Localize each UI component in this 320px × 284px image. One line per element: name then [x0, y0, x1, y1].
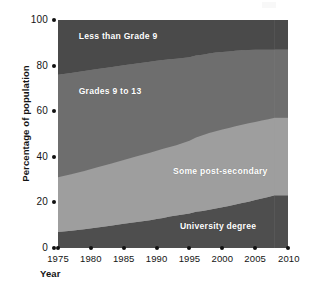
x-tick-dot: [122, 246, 126, 250]
x-tick-label: 1985: [113, 253, 135, 264]
band-label: Less than Grade 9: [79, 31, 158, 41]
y-axis-ticks: 100806040200: [26, 0, 56, 284]
scan-artifact: [262, 2, 276, 8]
y-tick-label: 40: [36, 151, 48, 163]
area-band-extend: [275, 118, 288, 196]
y-tick-label: 100: [31, 14, 48, 26]
x-tick-label: 2010: [278, 253, 300, 264]
y-tick-label: 20: [36, 196, 48, 208]
x-tick-dot: [220, 246, 224, 250]
plot-area: [58, 20, 288, 248]
x-tick-dot: [56, 246, 60, 250]
x-tick-label: 1995: [179, 253, 201, 264]
area-series-svg: [58, 20, 288, 248]
area-band-extend: [275, 20, 288, 50]
y-tick-dot: [52, 155, 56, 159]
y-tick-dot: [52, 200, 56, 204]
y-tick-label: 80: [36, 60, 48, 72]
x-tick-label: 2000: [212, 253, 234, 264]
band-label: Some post-secondary: [173, 166, 268, 176]
area-band-extend: [275, 195, 288, 248]
y-tick-dot: [52, 18, 56, 22]
x-tick-label: 2005: [244, 253, 266, 264]
x-tick-dot: [253, 246, 257, 250]
x-tick-dot: [187, 246, 191, 250]
y-tick: 40: [36, 151, 56, 163]
y-tick: 20: [36, 196, 56, 208]
y-tick-label: 60: [36, 105, 48, 117]
x-tick-dot: [286, 246, 290, 250]
stacked-area-chart: Percentage of population 100806040200 Le…: [0, 0, 320, 284]
band-label: University degree: [180, 221, 256, 231]
y-tick-dot: [52, 109, 56, 113]
x-axis-title: Year: [40, 268, 60, 279]
x-tick-label: 1990: [146, 253, 168, 264]
band-label: Grades 9 to 13: [79, 86, 142, 96]
y-tick: 60: [36, 105, 56, 117]
y-tick: 100: [31, 14, 56, 26]
x-tick-label: 1980: [80, 253, 102, 264]
x-axis-tick-labels: 19751980198519901995200020052010: [0, 253, 320, 267]
y-tick-dot: [52, 64, 56, 68]
y-tick: 80: [36, 60, 56, 72]
x-tick-dot: [155, 246, 159, 250]
area-band-extend: [275, 50, 288, 118]
x-tick-label: 1975: [47, 253, 69, 264]
x-tick-dot: [89, 246, 93, 250]
